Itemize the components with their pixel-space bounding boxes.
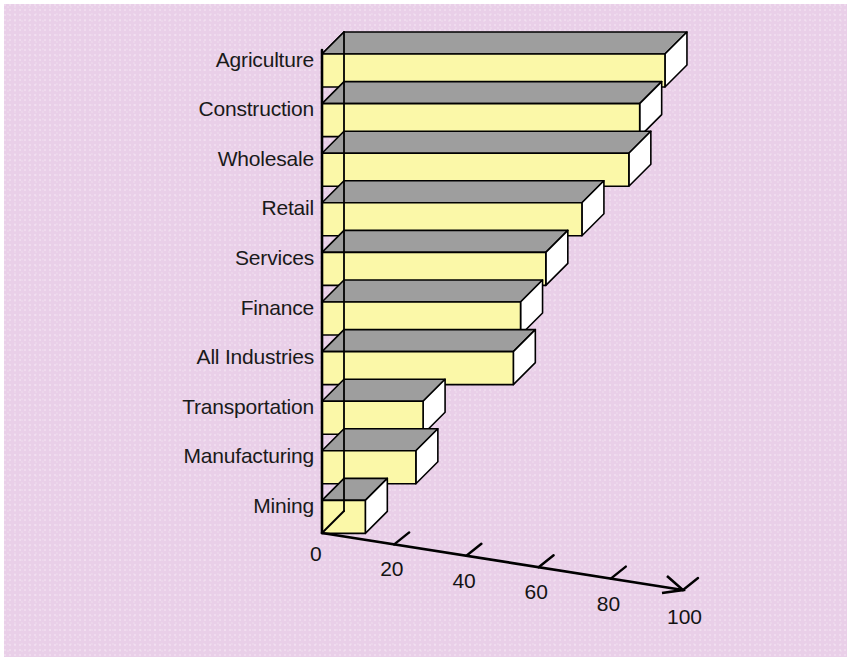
chart-svg bbox=[4, 4, 847, 657]
bar-top-face bbox=[322, 82, 662, 104]
bar-agriculture[interactable] bbox=[322, 32, 687, 87]
x-tick-label-100: 100 bbox=[667, 606, 702, 627]
bar-top-face bbox=[322, 32, 687, 54]
chart-frame: AgricultureConstructionWholesaleRetailSe… bbox=[4, 4, 847, 657]
bar-top-face bbox=[322, 131, 651, 153]
x-tick-80 bbox=[611, 567, 626, 579]
bar-retail[interactable] bbox=[322, 181, 604, 236]
category-label-services: Services bbox=[235, 247, 314, 268]
bar-finance[interactable] bbox=[322, 280, 543, 335]
bar-top-face bbox=[322, 230, 568, 252]
category-label-finance: Finance bbox=[241, 297, 314, 318]
x-tick-label-0: 0 bbox=[310, 543, 322, 564]
x-axis-line bbox=[322, 533, 683, 590]
category-label-agriculture: Agriculture bbox=[216, 49, 314, 70]
bar-top-face bbox=[322, 181, 604, 203]
x-tick-20 bbox=[394, 532, 409, 544]
x-axis-arrow-icon bbox=[662, 576, 683, 593]
category-label-transportation: Transportation bbox=[182, 396, 314, 417]
x-tick-100 bbox=[683, 578, 698, 590]
x-tick-60 bbox=[539, 555, 554, 567]
category-label-retail: Retail bbox=[262, 197, 315, 218]
category-label-construction: Construction bbox=[199, 98, 315, 119]
bar-all-industries[interactable] bbox=[322, 330, 535, 385]
bar-manufacturing[interactable] bbox=[322, 429, 438, 484]
bar-top-face bbox=[322, 330, 535, 352]
x-tick-label-20: 20 bbox=[380, 558, 403, 579]
category-label-mining: Mining bbox=[253, 495, 314, 516]
bar-transportation[interactable] bbox=[322, 379, 445, 434]
x-tick-label-80: 80 bbox=[597, 593, 620, 614]
category-label-manufacturing: Manufacturing bbox=[184, 445, 314, 466]
bar-services[interactable] bbox=[322, 230, 568, 285]
x-tick-label-40: 40 bbox=[452, 570, 475, 591]
bar-chart-plot: AgricultureConstructionWholesaleRetailSe… bbox=[4, 4, 847, 657]
bar-construction[interactable] bbox=[322, 82, 662, 137]
x-tick-label-60: 60 bbox=[525, 581, 548, 602]
category-label-wholesale: Wholesale bbox=[218, 148, 314, 169]
bar-top-face bbox=[322, 280, 543, 302]
category-label-all-industries: All Industries bbox=[197, 346, 314, 367]
bar-wholesale[interactable] bbox=[322, 131, 651, 186]
x-tick-40 bbox=[466, 544, 481, 556]
